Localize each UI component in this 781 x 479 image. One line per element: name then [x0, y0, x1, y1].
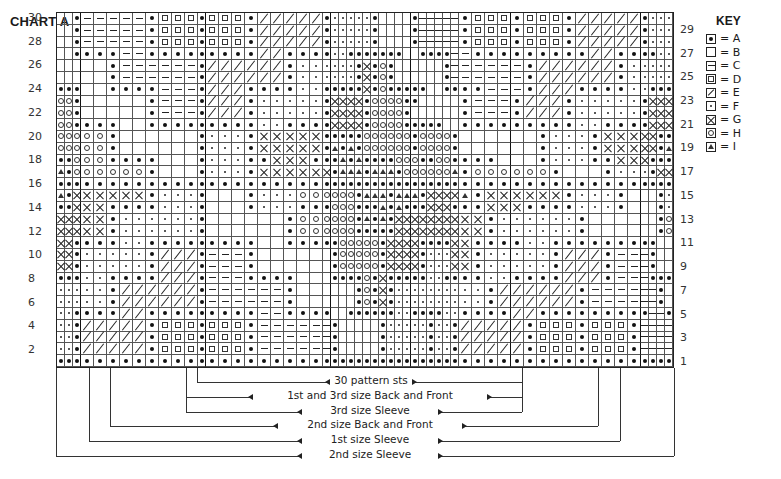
stitch-cell-open-circle-icon [339, 249, 347, 261]
stitch-cell-dash-icon [323, 343, 331, 355]
stitch-cell-filled-dot-icon [472, 237, 485, 249]
stitch-cell-filled-dot-icon [602, 119, 615, 131]
stitch-cell-blank-square-icon [323, 296, 331, 308]
stitch-cell-filled-dot-icon [133, 155, 146, 167]
stitch-cell-filled-dot-icon [57, 155, 65, 167]
stitch-cell-filled-dot-icon [107, 296, 120, 308]
stitch-cell-small-dot-icon [232, 155, 245, 167]
stitch-cell-small-dot-icon [271, 202, 284, 214]
stitch-cell-dash-icon [172, 107, 185, 119]
stitch-cell-filled-dot-icon [602, 237, 615, 249]
stitch-cell-blank-square-icon [472, 131, 485, 143]
stitch-cell-open-circle-icon [419, 131, 427, 143]
stitch-cell-dash-icon [271, 343, 284, 355]
stitch-cell-filled-dot-icon [198, 332, 206, 344]
stitch-cell-small-dot-icon [258, 107, 271, 119]
stitch-cell-small-dot-icon [206, 166, 219, 178]
stitch-cell-blank-square-icon [339, 332, 347, 344]
stitch-cell-blank-square-icon [347, 332, 355, 344]
stitch-cell-diagonal-slash-icon [563, 273, 576, 285]
stitch-cell-small-dot-icon [615, 96, 628, 108]
stitch-cell-small-dot-icon [576, 131, 589, 143]
stitch-cell-dash-icon [258, 343, 271, 355]
stitch-cell-cross-x-icon [498, 190, 511, 202]
stitch-cell-cross-x-icon [271, 131, 284, 143]
stitch-cell-filled-dot-icon [81, 237, 94, 249]
stitch-cell-dash-icon [271, 320, 284, 332]
stitch-cell-cross-x-icon [363, 72, 371, 84]
stitch-cell-filled-dot-icon [339, 178, 347, 190]
stitch-cell-small-dot-icon [219, 166, 232, 178]
stitch-cell-filled-dot-icon [245, 131, 258, 143]
stitch-cell-filled-dot-icon [511, 37, 524, 49]
stitch-cell-small-dot-icon [641, 84, 649, 96]
stitch-cell-filled-dot-icon [81, 355, 94, 367]
stitch-cell-dash-icon [120, 60, 133, 72]
stitch-cell-open-circle-icon [443, 155, 451, 167]
stitch-cell-small-dot-icon [219, 131, 232, 143]
stitch-cell-filled-dot-icon [146, 237, 159, 249]
stitch-cell-filled-dot-icon [537, 178, 550, 190]
stitch-cell-open-circle-icon [395, 107, 403, 119]
stitch-cell-filled-dot-icon [323, 25, 331, 37]
stitch-cell-filled-dot-icon [498, 237, 511, 249]
stitch-cell-blank-square-icon [403, 13, 411, 25]
stitch-cell-filled-dot-icon [427, 355, 435, 367]
stitch-cell-filled-dot-icon [198, 355, 206, 367]
stitch-cell-filled-dot-icon [563, 107, 576, 119]
stitch-cell-filled-dot-icon [524, 72, 537, 84]
stitch-cell-dash-icon [602, 284, 615, 296]
stitch-cell-open-circle-icon [443, 143, 451, 155]
stitch-cell-filled-dot-icon [403, 273, 411, 285]
stitch-cell-filled-dot-icon [387, 72, 395, 84]
stitch-cell-filled-dot-icon [657, 296, 665, 308]
stitch-cell-filled-dot-icon [576, 332, 589, 344]
stitch-cell-diagonal-slash-icon [550, 84, 563, 96]
stitch-cell-filled-dot-icon [323, 48, 331, 60]
stitch-cell-open-circle-icon [347, 225, 355, 237]
stitch-cell-cross-x-icon [641, 143, 649, 155]
stitch-cell-cross-x-icon [511, 202, 524, 214]
stitch-cell-diagonal-slash-icon [94, 332, 107, 344]
stitch-cell-filled-dot-icon [245, 107, 258, 119]
stitch-cell-filled-dot-icon [537, 273, 550, 285]
stitch-cell-filled-dot-icon [657, 355, 665, 367]
stitch-cell-diagonal-slash-icon [511, 343, 524, 355]
stitch-cell-filled-dot-icon [198, 308, 206, 320]
stitch-cell-filled-dot-icon [511, 273, 524, 285]
stitch-cell-blank-square-icon [472, 143, 485, 155]
stitch-cell-filled-dot-icon [459, 202, 472, 214]
stitch-cell-filled-dot-icon [459, 119, 472, 131]
bracket-line [186, 412, 302, 413]
stitch-cell-dash-icon [615, 284, 628, 296]
stitch-cell-small-dot-icon [576, 119, 589, 131]
stitch-cell-small-dot-icon [472, 296, 485, 308]
stitch-cell-open-circle-icon [435, 166, 443, 178]
stitch-cell-diagonal-slash-icon [258, 60, 271, 72]
stitch-cell-small-dot-icon [628, 166, 641, 178]
stitch-cell-filled-dot-icon [524, 202, 537, 214]
stitch-cell-cross-x-icon [310, 166, 323, 178]
stitch-cell-blank-square-icon [120, 131, 133, 143]
stitch-cell-dash-icon [498, 96, 511, 108]
stitch-cell-blank-square-icon [628, 190, 641, 202]
stitch-cell-diagonal-slash-icon [524, 308, 537, 320]
stitch-cell-filled-dot-icon [615, 48, 628, 60]
stitch-cell-filled-dot-icon [485, 296, 498, 308]
stitch-cell-dash-icon [427, 37, 435, 49]
stitch-cell-open-circle-icon [339, 261, 347, 273]
stitch-cell-filled-dot-icon [628, 48, 641, 60]
stitch-cell-small-dot-icon [258, 190, 271, 202]
stitch-cell-blank-square-icon [297, 261, 310, 273]
stitch-cell-diagonal-slash-icon [550, 72, 563, 84]
stitch-cell-diagonal-slash-icon [284, 13, 297, 25]
stitch-cell-blank-square-icon [427, 96, 435, 108]
stitch-cell-small-dot-icon [419, 320, 427, 332]
stitch-cell-filled-dot-icon [451, 178, 459, 190]
stitch-cell-open-circle-icon [310, 225, 323, 237]
stitch-cell-open-circle-icon [331, 225, 339, 237]
stitch-cell-filled-dot-icon [472, 190, 485, 202]
stitch-cell-cross-x-icon [379, 284, 387, 296]
stitch-cell-blank-square-icon [459, 131, 472, 143]
stitch-cell-filled-dot-icon [563, 355, 576, 367]
